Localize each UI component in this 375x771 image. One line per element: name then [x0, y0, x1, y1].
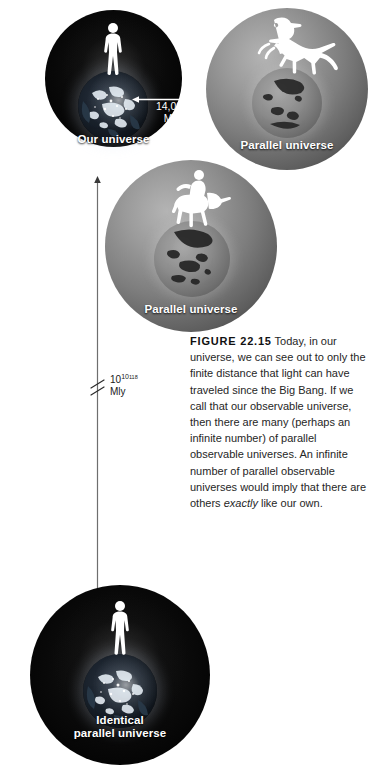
caption-text-part-2: like our own. [258, 497, 323, 509]
caption-emphasis: exactly [224, 497, 258, 509]
separation-base: 10 [110, 374, 121, 385]
universe-label-parallel-centaur: Parallel universe [105, 303, 277, 316]
figure-caption: FIGURE 22.15 Today, in our universe, we … [190, 333, 368, 511]
radius-unit: Mly [164, 112, 180, 124]
identical-label-line-1: Identical [96, 714, 144, 726]
dinosaur-silhouette [247, 14, 343, 80]
universe-label-our-universe: Our universe [45, 133, 182, 146]
caption-text-part-1: Today, in our universe, we can see out t… [190, 335, 366, 509]
radius-value: 14,000 [156, 100, 188, 112]
separation-exponent-of-exponent: 118 [129, 374, 138, 380]
separation-measure-arrow [89, 176, 106, 600]
separation-exponent: 10 [121, 373, 129, 380]
universe-label-identical-parallel: Identical parallel universe [30, 714, 210, 740]
figure-canvas: Our universe 14,000 Mly [0, 0, 375, 771]
radius-measure-label: 14,000 Mly [134, 101, 210, 125]
human-silhouette-our-universe [102, 22, 124, 76]
identical-label-line-2: parallel universe [74, 727, 166, 739]
figure-number: FIGURE 22.15 [190, 335, 272, 347]
centaur-silhouette [155, 169, 233, 233]
separation-unit: Mly [110, 386, 138, 398]
universe-label-parallel-dinosaur: Parallel universe [206, 139, 368, 152]
human-silhouette-identical-parallel [109, 600, 131, 657]
separation-measure-label: 1010118 Mly [110, 373, 138, 397]
